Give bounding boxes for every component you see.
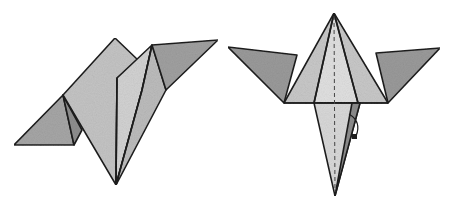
right-wing	[376, 48, 440, 103]
fold-line	[116, 78, 117, 185]
left-wing	[228, 47, 297, 103]
step-a-model	[14, 38, 218, 185]
origami-diagram	[0, 0, 453, 204]
diagram-canvas	[0, 0, 453, 204]
